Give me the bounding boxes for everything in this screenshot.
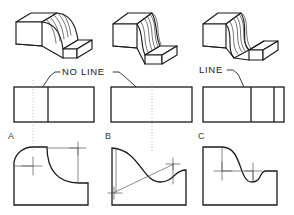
top-view-b — [111, 87, 192, 122]
top-view-a-outline — [14, 87, 94, 122]
pictorial-c-platform-front — [249, 50, 263, 60]
profile-a-letter: A — [8, 131, 14, 141]
pictorial-c-front-face — [203, 24, 226, 48]
pictorial-a-front-face — [16, 22, 42, 46]
top-view-a — [14, 87, 94, 122]
technical-drawing-figure: NO LINE LINE — [0, 0, 294, 215]
top-view-b-outline — [111, 87, 192, 122]
line-label: LINE — [199, 64, 223, 75]
profile-b-letter: B — [105, 131, 111, 141]
pictorial-a-platform-front — [63, 49, 77, 58]
pictorial-b-front-face — [113, 24, 137, 48]
no-line-label: NO LINE — [62, 66, 105, 77]
profile-c-letter: C — [198, 131, 205, 141]
top-view-c — [203, 87, 284, 122]
top-view-c-outline — [203, 87, 284, 122]
pictorial-b-platform-front — [145, 55, 162, 64]
figure-canvas: NO LINE LINE — [0, 0, 294, 215]
